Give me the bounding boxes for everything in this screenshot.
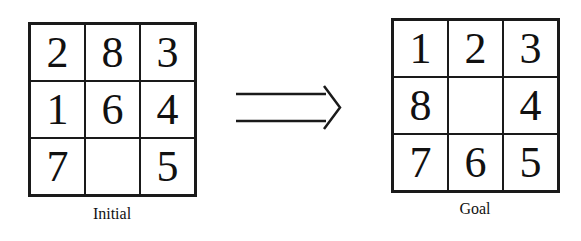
tile: 3 [140, 24, 195, 81]
tile: 2 [30, 24, 85, 81]
tile: 5 [140, 138, 195, 195]
blank-tile [85, 138, 140, 195]
tile: 5 [503, 134, 558, 191]
tile: 3 [503, 20, 558, 77]
tile: 7 [393, 134, 448, 191]
tile: 6 [448, 134, 503, 191]
tile: 4 [503, 77, 558, 134]
tile: 8 [393, 77, 448, 134]
goal-caption: Goal [415, 200, 535, 218]
blank-tile [448, 77, 503, 134]
tile: 2 [448, 20, 503, 77]
goal-board: 1 2 3 8 4 7 6 5 [391, 18, 560, 193]
double-right-arrow-icon [234, 84, 344, 130]
tile: 1 [30, 81, 85, 138]
tile: 4 [140, 81, 195, 138]
tile: 7 [30, 138, 85, 195]
tile: 8 [85, 24, 140, 81]
tile: 1 [393, 20, 448, 77]
initial-board: 2 8 3 1 6 4 7 5 [28, 22, 197, 197]
tile: 6 [85, 81, 140, 138]
initial-caption: Initial [52, 205, 172, 223]
